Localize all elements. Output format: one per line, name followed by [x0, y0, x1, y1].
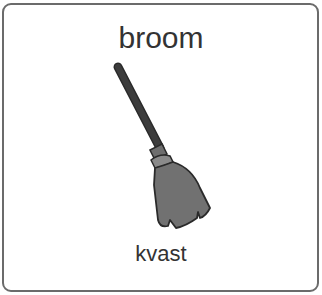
card-subtitle: kvast	[0, 241, 322, 267]
